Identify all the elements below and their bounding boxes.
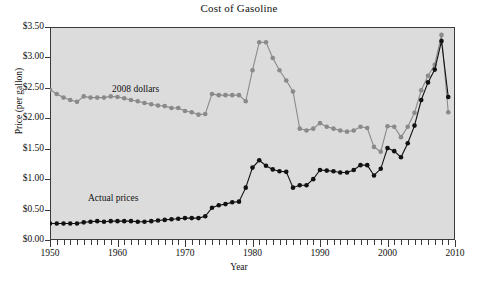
x-tick-mark: [212, 240, 213, 245]
x-tick-mark: [320, 240, 321, 247]
data-point: [331, 126, 336, 131]
data-point: [135, 99, 140, 104]
data-point: [237, 93, 242, 98]
data-point: [419, 98, 424, 103]
data-point: [345, 129, 350, 134]
y-tick-mark: [45, 27, 50, 28]
data-point: [446, 95, 451, 100]
data-point: [223, 202, 228, 207]
data-point: [378, 149, 383, 154]
data-point: [372, 145, 377, 150]
data-point: [385, 146, 390, 151]
data-point: [264, 40, 269, 45]
data-point: [203, 112, 208, 117]
data-point: [75, 221, 80, 226]
x-axis-title: Year: [0, 262, 478, 272]
data-point: [331, 169, 336, 174]
x-tick-label: 2000: [366, 248, 410, 258]
data-point: [81, 94, 86, 99]
data-point: [399, 135, 404, 140]
x-tick-label: 1960: [96, 248, 140, 258]
x-tick-mark: [266, 240, 267, 245]
data-point: [338, 170, 343, 175]
data-point: [88, 95, 93, 100]
data-point: [432, 67, 437, 72]
x-tick-mark: [327, 240, 328, 245]
x-tick-mark: [435, 240, 436, 245]
x-tick-mark: [415, 240, 416, 245]
data-point: [156, 218, 161, 223]
y-tick-label: $0.50: [0, 204, 44, 214]
data-point: [358, 163, 363, 168]
x-tick-mark: [334, 240, 335, 245]
x-tick-mark: [253, 240, 254, 247]
x-tick-mark: [118, 240, 119, 247]
data-point: [426, 80, 431, 85]
y-tick-label: $3.50: [0, 21, 44, 31]
chart-canvas: Cost of Gasoline Price (per gallon) Year…: [0, 0, 478, 282]
x-tick-mark: [307, 240, 308, 245]
data-point: [412, 123, 417, 128]
data-point: [304, 183, 309, 188]
data-point: [311, 177, 316, 182]
data-point: [95, 95, 100, 100]
data-point: [129, 219, 134, 224]
data-point: [189, 110, 194, 115]
data-point: [210, 205, 215, 210]
chart-title: Cost of Gasoline: [0, 2, 478, 14]
data-point: [405, 141, 410, 146]
x-tick-mark: [455, 240, 456, 247]
data-point: [237, 199, 242, 204]
plot-area: [50, 27, 455, 240]
y-tick-label: $3.00: [0, 51, 44, 61]
x-tick-mark: [131, 240, 132, 245]
x-tick-mark: [293, 240, 294, 245]
data-point: [372, 173, 377, 178]
data-point: [176, 216, 181, 221]
x-tick-mark: [286, 240, 287, 245]
data-point: [250, 165, 255, 170]
data-point: [162, 104, 167, 109]
data-point: [122, 219, 127, 224]
data-point: [284, 170, 289, 175]
x-tick-mark: [185, 240, 186, 247]
x-tick-mark: [91, 240, 92, 245]
data-point: [291, 185, 296, 190]
data-point: [338, 128, 343, 133]
x-tick-mark: [428, 240, 429, 245]
x-tick-mark: [199, 240, 200, 245]
data-point: [446, 110, 451, 115]
data-point: [297, 126, 302, 131]
data-point: [243, 99, 248, 104]
data-point: [270, 167, 275, 172]
x-tick-mark: [388, 240, 389, 247]
data-point: [412, 111, 417, 116]
y-tick-label: $2.00: [0, 112, 44, 122]
x-tick-mark: [97, 240, 98, 245]
data-point: [277, 68, 282, 73]
x-tick-mark: [232, 240, 233, 245]
data-point: [405, 125, 410, 130]
data-point: [88, 219, 93, 224]
data-point: [61, 95, 66, 100]
x-tick-mark: [84, 240, 85, 245]
data-point: [135, 219, 140, 224]
data-point: [378, 167, 383, 172]
data-point: [169, 217, 174, 222]
data-point: [318, 121, 323, 126]
x-tick-mark: [104, 240, 105, 245]
data-point: [115, 219, 120, 224]
series-line-2008-dollars: [50, 35, 448, 152]
data-point: [311, 126, 316, 131]
data-point: [392, 125, 397, 130]
x-tick-label: 1980: [231, 248, 275, 258]
x-tick-mark: [57, 240, 58, 245]
data-point: [223, 93, 228, 98]
data-point: [351, 168, 356, 173]
x-tick-mark: [273, 240, 274, 245]
data-point: [196, 216, 201, 221]
data-point: [230, 200, 235, 205]
data-point: [61, 221, 66, 226]
data-point: [196, 112, 201, 117]
x-tick-mark: [280, 240, 281, 245]
